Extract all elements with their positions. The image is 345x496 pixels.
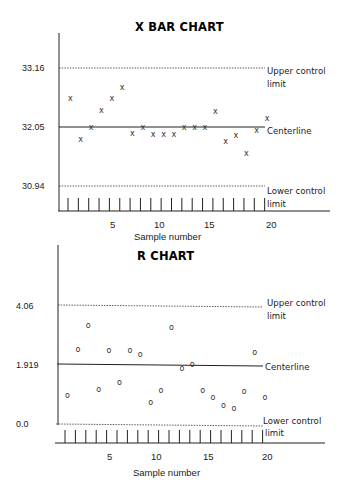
r-xlabel: Sample number: [133, 467, 200, 478]
data-point-x: x: [265, 114, 270, 123]
r-ucl-line: [58, 305, 263, 307]
data-point-x: x: [130, 129, 135, 138]
data-point-o: o: [231, 404, 236, 413]
r-ucl-label-1: Upper control: [267, 298, 326, 308]
xbar-lcl-value: 30.94: [22, 181, 45, 191]
data-point-o: o: [252, 348, 257, 357]
control-charts: X BAR CHART 33.16 32.05 30.94 Upper cont…: [0, 0, 345, 496]
r-lcl-line: [56, 424, 263, 426]
xbar-lcl-label-2: limit: [267, 199, 287, 209]
r-ucl-value: 4.06: [16, 301, 34, 311]
data-point-x: x: [78, 135, 83, 144]
data-point-x: x: [120, 83, 125, 92]
xbar-xtick-15: 15: [204, 219, 215, 230]
data-point-o: o: [65, 391, 70, 400]
xbar-chart: X BAR CHART 33.16 32.05 30.94 Upper cont…: [22, 20, 330, 242]
r-chart: R CHART 4.06 1.919 0.0 Upper control lim…: [16, 245, 326, 478]
data-point-o: o: [138, 350, 143, 359]
data-point-o: o: [117, 378, 122, 387]
r-xtick-5: 5: [107, 451, 112, 462]
r-chart-title: R CHART: [137, 249, 194, 263]
r-lcl-value: 0.0: [16, 419, 29, 429]
data-point-o: o: [242, 387, 247, 396]
data-point-o: o: [148, 398, 153, 407]
r-xtick-20: 20: [262, 451, 273, 462]
xbar-data-points: xxxxxxxxxxxxxxxxxxxx: [68, 83, 270, 158]
xbar-cl-value: 32.05: [22, 122, 45, 132]
data-point-x: x: [244, 149, 249, 158]
data-point-x: x: [234, 131, 239, 140]
r-ucl-label-2: limit: [267, 311, 287, 321]
data-point-o: o: [169, 323, 174, 332]
data-point-x: x: [192, 123, 197, 132]
data-point-x: x: [151, 130, 156, 139]
data-point-o: o: [159, 386, 164, 395]
data-point-o: o: [190, 360, 195, 369]
data-point-x: x: [213, 107, 218, 116]
xbar-lcl-label-1: Lower control: [267, 186, 325, 196]
xbar-ucl-label-2: limit: [267, 79, 287, 89]
r-cl-label: Centerline: [265, 362, 309, 372]
r-x-ticks: [65, 430, 263, 443]
r-lcl-label-1: Lower control: [263, 416, 321, 426]
data-point-x: x: [89, 123, 94, 132]
r-data-points: oooooooooooooooooooo: [65, 321, 268, 412]
data-point-x: x: [172, 130, 177, 139]
xbar-ucl-label-1: Upper control: [267, 66, 326, 76]
r-lcl-label-2: limit: [265, 428, 285, 438]
data-point-o: o: [221, 401, 226, 410]
data-point-x: x: [109, 94, 114, 103]
data-point-o: o: [107, 346, 112, 355]
data-point-x: x: [99, 106, 104, 115]
data-point-x: x: [182, 123, 187, 132]
xbar-chart-title: X BAR CHART: [135, 20, 224, 34]
data-point-x: x: [68, 94, 73, 103]
data-point-o: o: [127, 346, 132, 355]
xbar-xtick-5: 5: [110, 219, 115, 230]
xbar-xtick-10: 10: [154, 219, 165, 230]
xbar-xlabel: Sample number: [134, 231, 201, 242]
data-point-o: o: [211, 393, 216, 402]
r-xtick-15: 15: [203, 451, 214, 462]
data-point-o: o: [263, 393, 268, 402]
xbar-xtick-20: 20: [266, 219, 277, 230]
data-point-o: o: [75, 345, 80, 354]
data-point-x: x: [223, 137, 228, 146]
data-point-x: x: [203, 123, 208, 132]
xbar-x-ticks: [68, 198, 265, 211]
data-point-x: x: [161, 130, 166, 139]
xbar-cl-label: Centerline: [267, 126, 311, 136]
data-point-x: x: [140, 123, 145, 132]
xbar-ucl-value: 33.16: [22, 63, 45, 73]
data-point-o: o: [200, 386, 205, 395]
data-point-o: o: [96, 385, 101, 394]
r-xtick-10: 10: [151, 451, 162, 462]
r-cl-value: 1.919: [16, 360, 39, 370]
data-point-o: o: [86, 321, 91, 330]
r-centerline: [57, 364, 263, 366]
data-point-o: o: [179, 364, 184, 373]
data-point-x: x: [254, 126, 259, 135]
